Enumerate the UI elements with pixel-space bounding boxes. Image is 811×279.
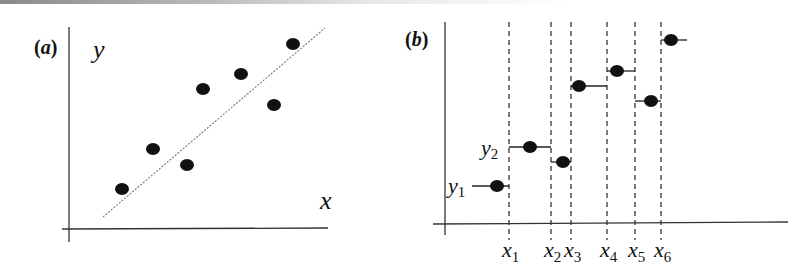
panel-a: (a) y x	[34, 27, 332, 242]
x-breakpoint-label: x2	[543, 237, 561, 265]
scatter-point	[196, 83, 210, 95]
panel-b-breakpoint-lines	[509, 22, 661, 240]
step-data-point	[523, 141, 537, 153]
scatter-point	[234, 68, 248, 80]
panel-a-data-points	[115, 38, 300, 195]
panel-b-y2-label: y2	[479, 135, 498, 162]
x-breakpoint-label: x3	[563, 237, 581, 265]
step-data-point	[556, 156, 570, 168]
scatter-point	[180, 159, 194, 171]
scatter-point	[146, 143, 160, 155]
panel-b-step-segments	[472, 34, 687, 192]
panel-b-x-labels: x1x2x3x4x5x6	[501, 237, 672, 265]
step-data-point	[572, 80, 586, 92]
panel-a-label: (a)	[34, 36, 57, 59]
panel-a-x-axis	[62, 228, 328, 229]
scatter-point	[286, 38, 300, 50]
x-breakpoint-label: x1	[501, 237, 519, 265]
panel-a-x-axis-label: x	[319, 186, 332, 215]
panel-a-y-axis-label: y	[90, 35, 105, 64]
x-breakpoint-label: x4	[599, 237, 618, 265]
x-breakpoint-label: x6	[653, 237, 672, 265]
step-data-point	[490, 180, 504, 192]
panel-a-regression-line	[103, 28, 325, 217]
panel-b-label: (b)	[405, 28, 428, 51]
panel-b-x-axis	[433, 222, 788, 224]
scatter-point	[115, 183, 129, 195]
step-data-point	[644, 95, 658, 107]
step-data-point	[664, 34, 678, 46]
x-breakpoint-label: x5	[627, 237, 645, 265]
panel-b: x1x2x3x4x5x6 (b) y1 y2	[405, 22, 788, 265]
figure-canvas: (a) y x x1x2x3x4x5x6 (b) y1 y2	[0, 0, 811, 279]
scatter-point	[267, 99, 281, 111]
step-data-point	[610, 65, 624, 77]
panel-b-y1-label: y1	[446, 173, 465, 200]
